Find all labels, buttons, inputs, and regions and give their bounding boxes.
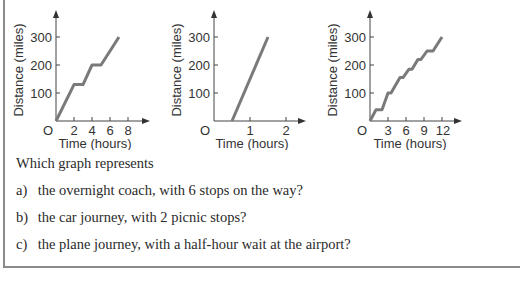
question-label: c) bbox=[16, 231, 34, 258]
y-axis-label: Distance (miles) bbox=[169, 23, 184, 116]
y-ticks bbox=[370, 37, 374, 93]
y-tick-label: 300 bbox=[30, 30, 52, 45]
question-prompt: Which graph represents bbox=[16, 150, 351, 177]
question-c: c) the plane journey, with a half-hour w… bbox=[16, 231, 351, 258]
origin-label: O bbox=[200, 123, 210, 138]
y-ticks bbox=[56, 37, 60, 93]
y-tick-label: 200 bbox=[188, 58, 210, 73]
y-tick-label: 200 bbox=[30, 58, 52, 73]
question-label: a) bbox=[16, 177, 34, 204]
question-a: a) the overnight coach, with 6 stops on … bbox=[16, 177, 351, 204]
chart-3: 100 200 300 O 3 6 9 12 Time (hours) Dist… bbox=[325, 14, 458, 150]
y-axis-label: Distance (miles) bbox=[325, 23, 340, 116]
question-text: the car journey, with 2 picnic stops? bbox=[38, 209, 247, 225]
origin-label: O bbox=[43, 123, 53, 138]
y-tick-label: 100 bbox=[344, 86, 366, 101]
chart-1: 100 200 300 O 2 4 6 8 Time (hours) Dista… bbox=[11, 14, 146, 150]
question-block: Which graph represents a) the overnight … bbox=[16, 150, 351, 258]
frame-bottom-border bbox=[3, 266, 520, 268]
y-tick-label: 200 bbox=[344, 58, 366, 73]
y-axis-label: Distance (miles) bbox=[11, 23, 26, 116]
y-tick-label: 300 bbox=[344, 30, 366, 45]
y-tick-label: 100 bbox=[30, 86, 52, 101]
distance-line bbox=[56, 37, 119, 121]
origin-label: O bbox=[357, 123, 367, 138]
distance-line bbox=[370, 37, 442, 121]
x-ticks bbox=[250, 117, 286, 121]
chart-2: 100 200 300 O 1 2 Time (hours) Distance … bbox=[169, 14, 302, 150]
y-tick-label: 100 bbox=[188, 86, 210, 101]
x-axis-label: Time (hours) bbox=[58, 136, 131, 150]
question-text: the overnight coach, with 6 stops on the… bbox=[38, 182, 303, 198]
question-b: b) the car journey, with 2 picnic stops? bbox=[16, 204, 351, 231]
distance-line bbox=[232, 37, 268, 121]
x-axis-label: Time (hours) bbox=[215, 136, 288, 150]
x-ticks bbox=[74, 117, 128, 121]
y-ticks bbox=[214, 37, 218, 93]
x-axis-label: Time (hours) bbox=[373, 136, 446, 150]
x-ticks bbox=[388, 117, 442, 121]
y-tick-label: 300 bbox=[188, 30, 210, 45]
question-text: the plane journey, with a half-hour wait… bbox=[38, 236, 351, 252]
charts-area: 100 200 300 O 2 4 6 8 Time (hours) Dista… bbox=[0, 0, 520, 150]
question-label: b) bbox=[16, 204, 34, 231]
